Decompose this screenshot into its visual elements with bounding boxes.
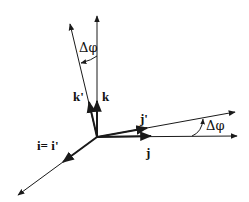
i-unit-vector xyxy=(63,137,97,162)
j-label: j xyxy=(145,145,150,160)
j-prime-label: j' xyxy=(139,111,148,126)
k-prime-unit-vector xyxy=(89,102,97,137)
frame-rotation-diagram: k k' j' j i= i' Δφ Δφ xyxy=(0,0,249,202)
angle-arc-top xyxy=(81,56,97,63)
angle-arc-right xyxy=(192,119,203,136)
i-label: i= i' xyxy=(37,138,59,153)
delta-phi-top-label: Δφ xyxy=(79,40,98,55)
k-label: k xyxy=(102,89,110,104)
delta-phi-right-label: Δφ xyxy=(206,118,225,133)
k-prime-label: k' xyxy=(73,89,84,104)
